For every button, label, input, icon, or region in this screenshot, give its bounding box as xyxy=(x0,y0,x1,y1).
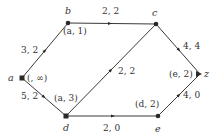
edge-label-e-z: 4, 0 xyxy=(183,90,200,100)
node-label-c: c xyxy=(152,7,158,18)
node-z xyxy=(196,71,202,77)
node-mark-z: (e, 2) xyxy=(169,69,193,79)
node-label-e: e xyxy=(155,123,161,134)
edge-label-b-c: 2, 2 xyxy=(102,6,119,16)
node-mark-a: (, ∞) xyxy=(27,73,47,83)
node-label-b: b xyxy=(65,5,71,16)
edge-label-a-d: 5, 2 xyxy=(21,91,38,101)
node-e xyxy=(156,114,161,119)
node-label-a: a xyxy=(8,72,14,83)
edge-label-c-z: 4, 4 xyxy=(183,41,200,51)
edge-label-d-e: 2, 0 xyxy=(103,123,120,133)
node-b xyxy=(66,21,71,26)
node-mark-d: (a, 3) xyxy=(54,93,78,103)
node-mark-b: (a, 1) xyxy=(63,26,87,36)
edge-label-d-c: 2, 2 xyxy=(118,66,135,76)
node-label-d: d xyxy=(63,122,69,133)
node-mark-e: (d, 2) xyxy=(135,99,159,109)
arrow-marker-d-e xyxy=(111,114,115,117)
node-c xyxy=(154,22,159,27)
arrow-marker-b-c xyxy=(108,22,112,25)
node-a xyxy=(20,76,25,81)
node-label-z: z xyxy=(203,68,210,79)
edge-label-a-b: 3, 2 xyxy=(21,45,38,55)
flow-network-diagram: a b c d e z (, ∞) (a, 1) (a, 3) (d, 2) (… xyxy=(0,0,220,139)
node-d xyxy=(64,114,69,119)
